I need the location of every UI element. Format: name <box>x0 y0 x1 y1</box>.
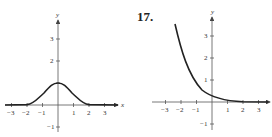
svg-text:−2: −2 <box>176 106 184 114</box>
svg-text:1: 1 <box>204 76 208 84</box>
svg-text:x: x <box>120 101 125 109</box>
svg-text:−1: −1 <box>200 120 208 128</box>
svg-text:y: y <box>55 11 60 19</box>
svg-text:1: 1 <box>226 106 230 114</box>
svg-text:−2: −2 <box>22 109 30 117</box>
svg-text:−1: −1 <box>47 123 55 131</box>
svg-text:−3: −3 <box>7 109 15 117</box>
svg-text:2: 2 <box>50 57 54 65</box>
svg-text:−3: −3 <box>161 106 169 114</box>
svg-text:2: 2 <box>241 106 245 114</box>
left-graph: x y −3−2 −11 23 32 −1 <box>5 11 125 132</box>
svg-text:3: 3 <box>257 106 261 114</box>
svg-text:2: 2 <box>204 54 208 62</box>
svg-text:2: 2 <box>87 109 91 117</box>
svg-text:1: 1 <box>72 109 76 117</box>
right-graph: y −3−2 −11 23 32 1−1 <box>152 8 270 130</box>
svg-text:3: 3 <box>204 32 208 40</box>
svg-text:3: 3 <box>50 35 54 43</box>
svg-text:−1: −1 <box>192 106 200 114</box>
svg-text:3: 3 <box>103 109 107 117</box>
svg-text:−1: −1 <box>38 109 46 117</box>
svg-text:y: y <box>210 8 215 16</box>
graphs: x y −3−2 −11 23 32 −1 y −3−2 −11 23 32 <box>0 0 272 137</box>
